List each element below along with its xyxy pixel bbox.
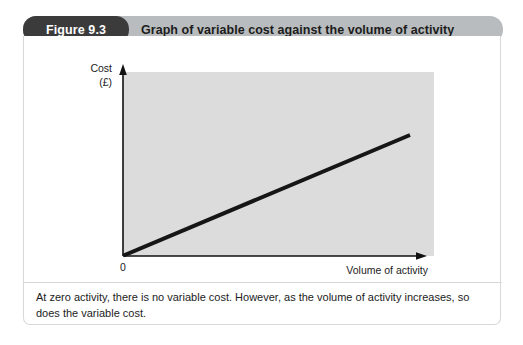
figure-number-label: Figure 9.3: [46, 23, 106, 37]
figure-caption: At zero activity, there is no variable c…: [36, 290, 491, 321]
variable-cost-line-chart: Cost (£) 0 Volume of activity: [24, 36, 502, 283]
caption-divider: [24, 282, 502, 283]
x-axis-label: Volume of activity: [346, 264, 428, 276]
origin-tick-label: 0: [120, 261, 126, 273]
y-axis-label-line2: (£): [99, 76, 112, 88]
y-axis-arrow-icon: [119, 64, 127, 75]
y-axis-label-line1: Cost: [90, 62, 112, 74]
chart-region: Cost (£) 0 Volume of activity: [24, 36, 502, 283]
figure-card: Cost (£) 0 Volume of activity At zero ac…: [23, 36, 501, 325]
plot-panel-background: [123, 72, 434, 256]
